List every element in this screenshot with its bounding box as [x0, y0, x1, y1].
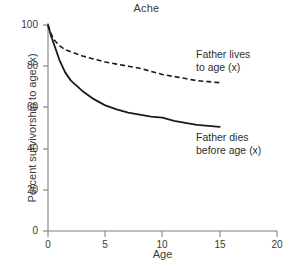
father-dies-annotation-line1: Father dies [196, 131, 261, 144]
father-lives-annotation-line2: to age (x) [196, 61, 250, 74]
x-axis-title: Age [48, 248, 277, 260]
father-dies-annotation-line2: before age (x) [196, 144, 261, 157]
father-dies-annotation: Father dies before age (x) [196, 131, 261, 157]
series-line-father-lives [48, 25, 220, 83]
chart-figure: Ache 100 80 60 40 20 0 0 5 10 15 20 Age … [0, 0, 293, 267]
series-line-father-dies [48, 25, 220, 127]
father-lives-annotation: Father lives to age (x) [196, 48, 250, 74]
y-axis-title: Percent survivorship to age (x) [26, 18, 38, 238]
father-lives-annotation-line1: Father lives [196, 48, 250, 61]
